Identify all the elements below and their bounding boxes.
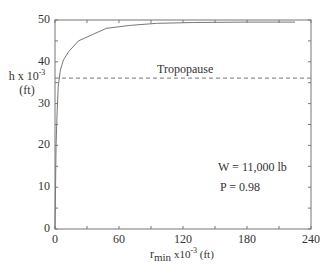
x-axis-label-sub: min xyxy=(154,251,171,263)
y-tick-label: 0 xyxy=(44,221,50,236)
weight-annotation: W = 11,000 lb xyxy=(218,160,287,175)
x-axis-label: rmin x10-3 (ft) xyxy=(150,246,214,263)
axis-ticks xyxy=(55,20,311,229)
y-tick-label: 50 xyxy=(38,12,50,27)
data-curve xyxy=(55,22,295,229)
y-tick-label: 30 xyxy=(38,96,50,111)
plot-area xyxy=(0,0,335,276)
y-tick-label: 10 xyxy=(38,179,50,194)
x-tick-label: 0 xyxy=(52,232,58,247)
tropopause-label: Tropopause xyxy=(157,62,213,77)
x-tick-label: 240 xyxy=(302,232,320,247)
x-axis-label-unit: (ft) xyxy=(197,248,214,260)
x-tick-label: 120 xyxy=(174,232,192,247)
x-axis-label-text: x10 xyxy=(171,248,190,260)
y-axis-label-exponent: -3 xyxy=(39,68,46,77)
power-annotation: P = 0.98 xyxy=(220,180,260,195)
y-tick-label: 20 xyxy=(38,137,50,152)
y-axis-label-unit: (ft) xyxy=(19,83,34,97)
plot-frame xyxy=(55,20,311,229)
y-axis-label: h x 10-3 (ft) xyxy=(4,66,50,97)
x-tick-label: 60 xyxy=(113,232,125,247)
x-tick-label: 180 xyxy=(238,232,256,247)
y-axis-label-text: h x 10 xyxy=(9,69,39,83)
